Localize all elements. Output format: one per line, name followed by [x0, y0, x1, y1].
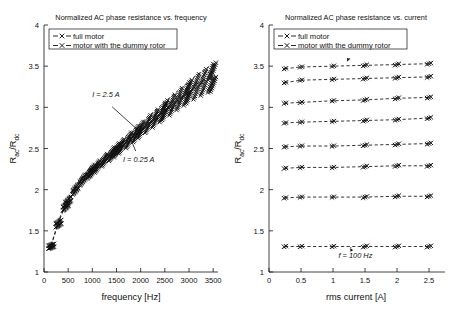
series-line [285, 77, 429, 83]
y-axis-label: Rac/Rdc [8, 133, 20, 163]
legend-entry-label: full motor [73, 32, 105, 41]
current-annotations: f = 3500 Hzf = 100 Hz [335, 40, 373, 260]
x-tick-label: 1500 [108, 276, 125, 285]
x-tick-label: 0.5 [296, 276, 307, 285]
y-tick-label: 3.5 [28, 62, 39, 71]
y-tick-label: 1.5 [28, 227, 39, 236]
x-tick-label: 3500 [205, 276, 222, 285]
y-tick-label: 1.5 [253, 227, 264, 236]
x-axis-label: frequency [Hz] [101, 292, 160, 302]
chart-panel-frequency: Normalized AC phase resistance vs. frequ… [0, 0, 226, 313]
y-tick-label: 4 [35, 21, 39, 30]
current-chart-svg: Normalized AC phase resistance vs. curre… [227, 0, 453, 313]
frequency-y-axis-label: Rac/Rdc [8, 133, 20, 163]
x-tick-label: 2.5 [424, 276, 435, 285]
chart-panel-current: Normalized AC phase resistance vs. curre… [227, 0, 453, 313]
annotation-label: I = 0.25 A [123, 155, 155, 164]
y-tick-label: 1 [260, 268, 264, 277]
y-label-sub-dc: dc [238, 133, 245, 141]
y-tick-label: 2.5 [253, 145, 264, 154]
annotation-arrow [350, 247, 351, 248]
x-tick-label: 1.5 [360, 276, 371, 285]
legend-entry-label: motor with the dummy rotor [298, 41, 391, 50]
current-legend[interactable]: full motormotor with the dummy rotor [274, 29, 407, 50]
axis-lines [269, 25, 445, 272]
y-tick-label: 3 [35, 103, 39, 112]
annotation-label: I = 2.5 A [92, 90, 120, 99]
current-data-series [282, 61, 433, 249]
y-tick-label: 2 [35, 186, 39, 195]
frequency-chart-svg: Normalized AC phase resistance vs. frequ… [0, 0, 226, 313]
axis-lines [44, 25, 218, 272]
y-axis-label: Rac/Rdc [233, 133, 245, 163]
y-tick-label: 2 [260, 186, 264, 195]
y-tick-label: 4 [260, 21, 264, 30]
y-tick-label: 3 [260, 103, 264, 112]
series-line [285, 144, 429, 147]
x-tick-label: 2000 [132, 276, 149, 285]
series-line [285, 64, 429, 69]
chart-title: Normalized AC phase resistance vs. frequ… [55, 13, 207, 22]
x-tick-label: 3000 [181, 276, 198, 285]
frequency-legend[interactable]: full motormotor with the dummy rotor [49, 29, 177, 50]
current-y-axis-label: Rac/Rdc [233, 133, 245, 163]
series-line [285, 118, 429, 123]
legend-entry-label: full motor [298, 32, 330, 41]
annotation-label: f = 100 Hz [338, 251, 372, 260]
x-tick-label: 2500 [156, 276, 173, 285]
y-tick-label: 1 [35, 268, 39, 277]
y-tick-label: 3.5 [253, 62, 264, 71]
x-tick-label: 0 [267, 276, 271, 285]
current-chart-title-group: Normalized AC phase resistance vs. curre… [285, 13, 427, 22]
x-tick-label: 2 [395, 276, 399, 285]
x-tick-label: 1000 [84, 276, 101, 285]
legend-entry-label: motor with the dummy rotor [73, 41, 166, 50]
annotation-arrow [112, 107, 138, 131]
series-line [285, 196, 429, 198]
annotation-arrowhead [347, 58, 350, 62]
series-line [285, 97, 429, 103]
series-line [285, 166, 429, 168]
x-axis-label: rms current [A] [326, 292, 386, 302]
x-tick-label: 500 [62, 276, 75, 285]
frequency-chart-title-group: Normalized AC phase resistance vs. frequ… [55, 13, 207, 22]
x-tick-label: 1 [331, 276, 335, 285]
frequency-axes: 11.522.533.54050010001500200025003000350… [28, 21, 221, 285]
chart-title: Normalized AC phase resistance vs. curre… [285, 13, 427, 22]
y-label-sub-dc: dc [13, 133, 20, 141]
figure-root: Normalized AC phase resistance vs. frequ… [0, 0, 453, 313]
y-tick-label: 2.5 [28, 145, 39, 154]
x-tick-label: 0 [42, 276, 46, 285]
